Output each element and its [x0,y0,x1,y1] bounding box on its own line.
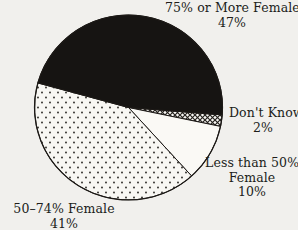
label-dont-know: Don't Know 2% [229,106,297,135]
label-50-74-female-text: 50–74% Female [1,202,127,217]
label-50-74-female-pct: 41% [1,217,127,231]
label-75-or-more-female-pct: 47% [165,16,298,31]
label-dont-know-pct: 2% [229,121,297,136]
label-75-or-more-female: 75% or More Female 47% [165,1,298,30]
label-75-or-more-female-text: 75% or More Female [165,1,298,16]
label-less-than-50-female-pct: 10% [205,185,298,200]
label-less-than-50-female-text1: Less than 50% [205,156,298,171]
label-dont-know-text: Don't Know [229,106,297,121]
label-50-74-female: 50–74% Female 41% [1,202,127,230]
pie-chart-figure: 75% or More Female 47% Don't Know 2% Les… [0,0,298,230]
label-less-than-50-female: Less than 50% Female 10% [205,156,298,200]
label-less-than-50-female-text2: Female [205,171,298,186]
